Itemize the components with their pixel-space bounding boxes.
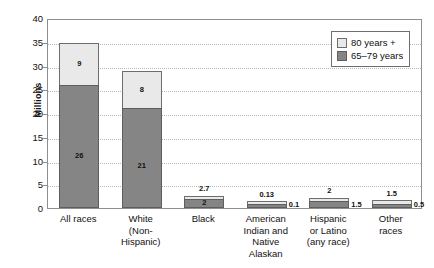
bar-value-label-65-79-all-races: 26 [60, 152, 98, 160]
bar-segment-65-79-other-races[interactable] [372, 204, 412, 208]
bar-value-label-65-79-american-indian-native-alaskan: 0.1 [289, 201, 299, 209]
bar-stack-hispanic-or-latino[interactable]: 21.5 [309, 198, 349, 208]
bar-stack-other-races[interactable]: 1.50.5 [372, 200, 412, 208]
bar-value-label-65-79-other-races: 0.5 [414, 201, 424, 209]
bar-value-label-80-plus-white-non-hispanic: 8 [123, 86, 161, 94]
bar-chart: Millions 4035302520151050 9268212.720.13… [0, 0, 434, 268]
gridline-20 [48, 115, 421, 116]
gridline-15 [48, 139, 421, 140]
bar-segment-65-79-white-non-hispanic[interactable]: 21 [122, 108, 162, 208]
y-tick-label-20: 20 [15, 109, 43, 119]
bar-segment-80-plus-all-races[interactable]: 9 [59, 43, 99, 86]
x-axis-label-american-indian-native-alaskan: AmericanIndian andNativeAlaskan [235, 213, 298, 259]
bar-value-label-80-plus-all-races: 9 [60, 60, 98, 68]
legend-label-65-79: 65–79 years [351, 51, 403, 61]
x-axis-label-line: Native [235, 236, 298, 248]
bar-value-label-65-79-white-non-hispanic: 21 [123, 162, 161, 170]
bar-segment-65-79-all-races[interactable]: 26 [59, 85, 99, 209]
y-tick-label-0: 0 [15, 204, 43, 214]
x-axis-label-line: (any race) [297, 236, 360, 248]
gridline-5 [48, 186, 421, 187]
bar-group-american-indian-native-alaskan: 0.130.1 [247, 20, 287, 208]
legend: 80 years + 65–79 years [331, 31, 410, 67]
bar-segment-65-79-black[interactable]: 2 [184, 199, 224, 209]
bar-stack-all-races[interactable]: 926 [59, 43, 99, 208]
gridline-10 [48, 163, 421, 164]
bar-total-label-black: 2.7 [184, 185, 224, 193]
x-axis-label-line: (Non-Hispanic) [110, 225, 173, 248]
x-axis-label-line: Black [172, 213, 235, 225]
x-axis-label-line: Hispanic [297, 213, 360, 225]
x-axis-label-line: races [360, 225, 423, 237]
bar-total-label-other-races: 1.5 [372, 190, 412, 198]
x-axis-label-line: American [235, 213, 298, 225]
y-tick-label-5: 5 [15, 180, 43, 190]
y-tick-label-35: 35 [15, 38, 43, 48]
bar-segment-80-plus-white-non-hispanic[interactable]: 8 [122, 71, 162, 109]
bar-value-label-65-79-black: 2 [185, 199, 223, 207]
legend-swatch-icon-65-79 [337, 51, 347, 61]
x-axis-label-black: Black [172, 213, 235, 225]
bar-group-white-non-hispanic: 821 [122, 20, 162, 208]
x-axis-label-line: All races [47, 213, 110, 225]
x-axis-label-hispanic-or-latino: Hispanicor Latino(any race) [297, 213, 360, 248]
x-axis-label-line: Alaskan [235, 248, 298, 260]
y-tick-label-40: 40 [15, 14, 43, 24]
x-axis-label-line: Other [360, 213, 423, 225]
y-tick-label-30: 30 [15, 62, 43, 72]
y-tick-label-15: 15 [15, 133, 43, 143]
bar-value-label-65-79-hispanic-or-latino: 1.5 [351, 201, 361, 209]
bar-stack-white-non-hispanic[interactable]: 821 [122, 71, 162, 208]
bar-stack-american-indian-native-alaskan[interactable]: 0.130.1 [247, 201, 287, 208]
legend-label-80-plus: 80 years + [351, 38, 396, 48]
x-axis-label-white-non-hispanic: White(Non-Hispanic) [110, 213, 173, 248]
bar-group-all-races: 926 [59, 20, 99, 208]
legend-item-65-79: 65–79 years [337, 49, 403, 62]
bar-group-black: 2.72 [184, 20, 224, 208]
x-axis-label-line: Indian and [235, 225, 298, 237]
gridline-30 [48, 68, 421, 69]
x-axis-label-line: or Latino [297, 225, 360, 237]
bar-total-label-american-indian-native-alaskan: 0.13 [247, 191, 287, 199]
x-axis-label-other-races: Otherraces [360, 213, 423, 236]
y-axis-title: Millions [33, 60, 43, 140]
gridline-25 [48, 91, 421, 92]
legend-item-80-plus: 80 years + [337, 36, 403, 49]
x-axis-label-line: White [110, 213, 173, 225]
bar-segment-65-79-american-indian-native-alaskan[interactable] [247, 204, 287, 208]
bar-stack-black[interactable]: 2.72 [184, 196, 224, 209]
y-tick-label-25: 25 [15, 85, 43, 95]
y-tick-label-10: 10 [15, 157, 43, 167]
bar-segment-65-79-hispanic-or-latino[interactable] [309, 201, 349, 208]
x-axis-label-all-races: All races [47, 213, 110, 225]
legend-swatch-icon-80-plus [337, 38, 347, 48]
bar-total-label-hispanic-or-latino: 2 [309, 187, 349, 195]
